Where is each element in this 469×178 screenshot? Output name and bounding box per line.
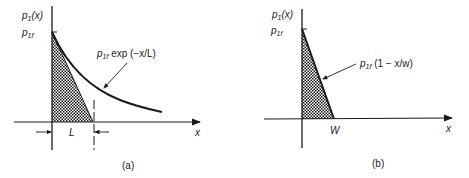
y-axis-label-a: p1(x) — [21, 10, 43, 22]
y-axis-label-b: p1(x) — [271, 9, 293, 21]
L-label: L — [69, 127, 75, 138]
leader-arrow-b — [323, 64, 356, 79]
line-label-b: p1f (1 − x/w) — [359, 58, 413, 70]
x-axis-b — [264, 118, 452, 119]
leader-arrow-a — [104, 63, 127, 88]
W-label: W — [330, 125, 341, 136]
panel-b: p1(x) p1f p1f (1 − x/w) W x (b) — [264, 9, 452, 169]
p1f-label-b: p1f — [270, 25, 283, 37]
panel-a: p1(x) p1f p1f exp (−x/L) L x (a) — [14, 6, 201, 171]
caption-a: (a) — [122, 160, 134, 171]
x-axis-label-b: x — [445, 123, 452, 134]
caption-b: (b) — [372, 158, 384, 169]
diagram-canvas: p1(x) p1f p1f exp (−x/L) L x (a) p1(x) p… — [0, 0, 469, 178]
p1f-label-a: p1f — [21, 27, 34, 39]
curve-label-a: p1f exp (−x/L) — [96, 48, 156, 60]
x-axis-label-a: x — [194, 127, 201, 138]
